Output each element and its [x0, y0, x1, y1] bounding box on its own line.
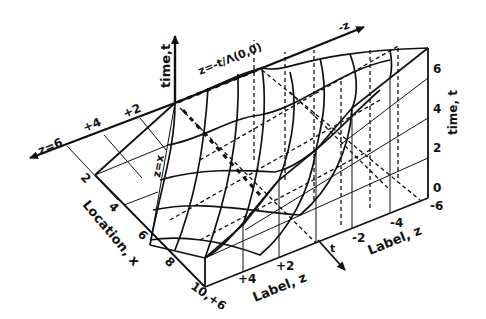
time-tick: 6	[433, 62, 441, 76]
z-front-axis-label: Label, z	[251, 270, 309, 305]
corner-label: 10,+6	[188, 279, 229, 313]
z-left-label: z=6	[36, 135, 65, 157]
time-tick: 0	[433, 181, 441, 195]
surface-mesh	[150, 48, 428, 258]
time-tick: 2	[433, 141, 441, 155]
z-front-tick: +4	[238, 272, 256, 286]
location-tick: 8	[162, 254, 178, 270]
z-top-tick: +2	[121, 101, 143, 121]
location-tick: 4	[106, 199, 122, 215]
characteristic-dashed-line-2	[183, 110, 260, 195]
t-arrow-label: t	[330, 242, 335, 255]
time-axis-label: time,t	[158, 44, 173, 88]
z-right-tick: -6	[430, 199, 443, 213]
time-tick: 4	[433, 102, 441, 116]
location-tick: 2	[78, 170, 94, 186]
z-front-tick: +2	[276, 259, 294, 273]
z-right-tick: -4	[390, 216, 403, 230]
surface-diagram: time,t z=-t/Λ(0,0) -z z=6 +4 +2 z=x 2 4 …	[0, 0, 486, 319]
location-tick: 6	[135, 227, 151, 243]
z-right-tick: -2	[352, 231, 365, 245]
z-equals-x-label: z=x	[150, 154, 167, 179]
time-right-label: time, t	[446, 90, 460, 135]
diagram-canvas: time,t z=-t/Λ(0,0) -z z=6 +4 +2 z=x 2 4 …	[0, 0, 486, 319]
